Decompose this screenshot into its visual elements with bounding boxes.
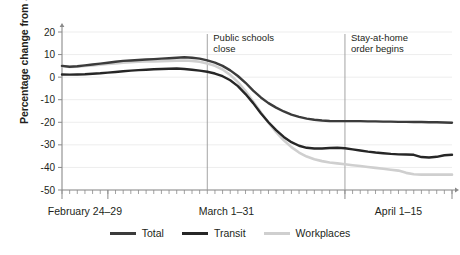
series-lines bbox=[62, 57, 452, 174]
y-axis-ticks: 20100-10-20-30-40-50 bbox=[41, 23, 65, 196]
annotation-labels: Public schoolscloseStay-at-homeorder beg… bbox=[213, 32, 408, 54]
y-tick-label: 0 bbox=[49, 72, 55, 83]
legend-label-workplaces: Workplaces bbox=[296, 228, 351, 239]
chart-legend: Total Transit Workplaces bbox=[0, 228, 460, 239]
legend-swatch-transit bbox=[182, 232, 208, 235]
legend-label-total: Total bbox=[142, 228, 164, 239]
x-axis-group-label: April 1–15 bbox=[375, 205, 422, 217]
annotation-label: Stay-at-home bbox=[351, 32, 408, 43]
y-tick-label: -20 bbox=[41, 117, 56, 128]
legend-label-transit: Transit bbox=[214, 228, 246, 239]
annotation-lines bbox=[207, 34, 345, 190]
legend-swatch-total bbox=[110, 232, 136, 235]
annotation-label: order begins bbox=[351, 43, 404, 54]
x-axis-group-label: February 24–29 bbox=[48, 205, 122, 217]
chart-plot-area: 20100-10-20-30-40-50 February 24–29March… bbox=[0, 0, 460, 226]
legend-item-transit[interactable]: Transit bbox=[182, 228, 246, 239]
chart-container: Percentage change from January 2020 2010… bbox=[0, 0, 460, 255]
legend-item-total[interactable]: Total bbox=[110, 228, 164, 239]
y-tick-label: -30 bbox=[41, 139, 56, 150]
gridlines bbox=[62, 32, 452, 190]
y-tick-label: 10 bbox=[44, 49, 56, 60]
y-tick-label: -40 bbox=[41, 162, 56, 173]
series-line-transit bbox=[62, 69, 452, 158]
y-tick-label: -50 bbox=[41, 185, 56, 196]
legend-item-workplaces[interactable]: Workplaces bbox=[264, 228, 351, 239]
y-tick-label: 20 bbox=[44, 27, 56, 38]
series-line-total bbox=[62, 57, 452, 122]
annotation-label: Public schools bbox=[213, 32, 274, 43]
x-axis-group-label: March 1–31 bbox=[199, 205, 255, 217]
annotation-label: close bbox=[213, 43, 235, 54]
y-tick-label: -10 bbox=[41, 94, 56, 105]
legend-swatch-workplaces bbox=[264, 232, 290, 235]
x-axis: February 24–29March 1–31April 1–15 bbox=[48, 188, 459, 217]
